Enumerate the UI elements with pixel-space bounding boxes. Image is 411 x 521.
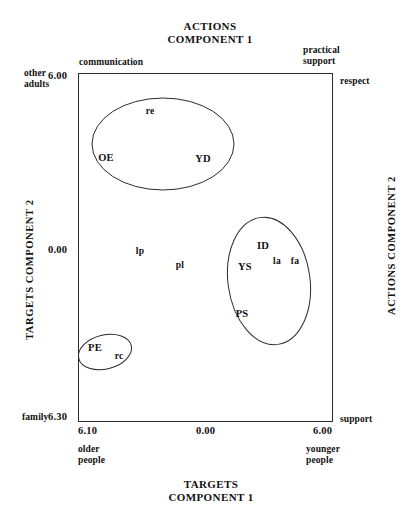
data-point-label: lp — [136, 246, 144, 256]
scatter-plot-figure: ACTIONS COMPONENT 1 communication practi… — [0, 0, 411, 521]
cluster-ellipses-layer — [0, 0, 411, 521]
data-point-label: PE — [88, 342, 102, 353]
data-point-label: la — [273, 256, 281, 266]
data-point-label: YD — [195, 153, 211, 164]
data-point-label: OE — [98, 152, 114, 163]
data-point-label: rc — [115, 351, 124, 361]
data-point-label: YS — [238, 261, 252, 272]
data-point-label: pl — [176, 260, 184, 270]
data-point-label: PS — [236, 308, 249, 319]
data-point-label: fa — [291, 256, 299, 266]
cluster-ellipse-upper-left — [92, 98, 234, 190]
data-point-label: ID — [257, 240, 269, 251]
data-point-label: re — [146, 106, 155, 116]
cluster-ellipse-lower-left — [75, 329, 136, 375]
cluster-ellipse-right — [219, 212, 318, 350]
